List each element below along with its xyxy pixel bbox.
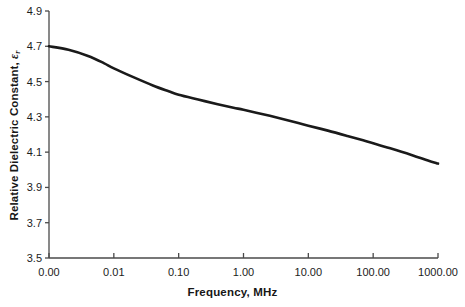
y-tick-label: 3.9 (14, 181, 42, 193)
y-tick-label: 4.3 (14, 111, 42, 123)
y-tick-label: 4.1 (14, 146, 42, 158)
x-tick-label: 100.00 (356, 266, 390, 278)
axis-lines (49, 11, 438, 258)
plot-area (0, 0, 465, 307)
y-tick-label: 4.5 (14, 76, 42, 88)
y-tick-label: 4.9 (14, 5, 42, 17)
epsilon-symbol: ε (8, 53, 22, 58)
x-tick-label: 0.10 (168, 266, 189, 278)
chart-figure: Relative Dielectric Constant, εr Frequen… (0, 0, 465, 307)
y-tick-label: 3.5 (14, 252, 42, 264)
data-series-line (49, 46, 438, 163)
x-tick-label: 0.01 (103, 266, 124, 278)
x-tick-label: 10.00 (295, 266, 323, 278)
y-tick-label: 3.7 (14, 217, 42, 229)
x-axis-ticks (49, 253, 438, 258)
x-tick-label: 1.00 (233, 266, 254, 278)
y-tick-label: 4.7 (14, 40, 42, 52)
x-axis-title: Frequency, MHz (0, 286, 465, 298)
x-tick-label: 1000.00 (418, 266, 458, 278)
x-tick-label: 0.00 (38, 266, 59, 278)
